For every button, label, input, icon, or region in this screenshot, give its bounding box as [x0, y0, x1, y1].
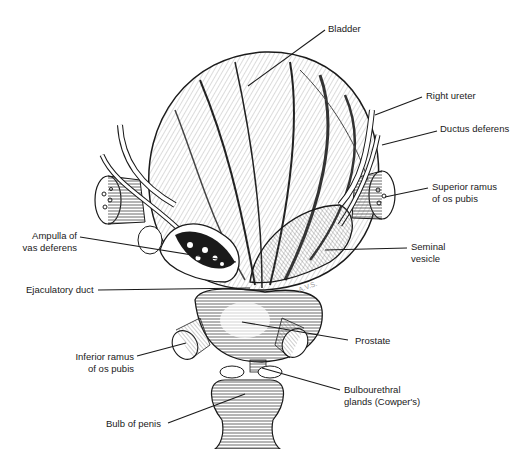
- anatomy-illustration: [0, 0, 527, 449]
- bulbourethral-shape: [220, 360, 282, 378]
- label-bulbourethral: Bulbourethral glands (Cowper's): [344, 384, 420, 408]
- label-superior-ramus: Superior ramus of os pubis: [432, 181, 497, 205]
- bulb-of-penis-shape: [211, 380, 283, 449]
- label-bladder: Bladder: [328, 23, 361, 35]
- label-ductus-deferens: Ductus deferens: [440, 123, 509, 135]
- label-seminal-vesicle: Seminal vesicle: [411, 241, 445, 265]
- label-right-ureter: Right ureter: [426, 90, 476, 102]
- label-inferior-ramus: Inferior ramus of os pubis: [60, 351, 134, 375]
- label-ejaculatory-duct: Ejaculatory duct: [26, 284, 94, 296]
- label-prostate: Prostate: [355, 335, 390, 347]
- label-bulb-of-penis: Bulb of penis: [106, 418, 161, 430]
- label-ampulla: Ampulla of vas deferens: [22, 230, 77, 254]
